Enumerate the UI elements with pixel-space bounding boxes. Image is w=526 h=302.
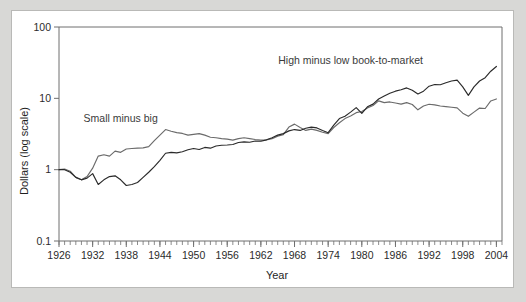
series-group xyxy=(59,66,496,185)
series-annotation-label: Small minus big xyxy=(84,112,158,124)
annotation-group: Small minus bigHigh minus low book-to-ma… xyxy=(84,54,423,124)
axes-group: 1001010.11926193219381944195019561962196… xyxy=(33,21,508,261)
x-tick-label: 1932 xyxy=(81,249,105,261)
y-tick-label: 100 xyxy=(33,21,51,33)
series-annotation-label: High minus low book-to-market xyxy=(278,54,423,66)
y-tick-label: 1 xyxy=(45,163,51,175)
figure-panel: 1001010.11926193219381944195019561962196… xyxy=(11,10,514,288)
x-tick-label: 1974 xyxy=(316,249,340,261)
series-line xyxy=(59,66,496,185)
x-axis-title: Year xyxy=(266,269,289,281)
x-tick-label: 1992 xyxy=(417,249,441,261)
x-tick-label: 1956 xyxy=(216,249,240,261)
y-tick-label: 10 xyxy=(39,92,51,104)
y-tick-label: 0.1 xyxy=(36,235,51,247)
x-tick-label: 1986 xyxy=(384,249,408,261)
x-tick-label: 1962 xyxy=(249,249,273,261)
x-tick-label: 2004 xyxy=(485,249,509,261)
x-tick-label: 1998 xyxy=(451,249,475,261)
x-tick-label: 1926 xyxy=(47,249,71,261)
y-axis-title: Dollars (log scale) xyxy=(18,107,30,195)
x-tick-label: 1938 xyxy=(115,249,139,261)
series-line xyxy=(59,99,496,180)
x-tick-label: 1968 xyxy=(283,249,307,261)
x-tick-label: 1944 xyxy=(148,249,172,261)
x-tick-label: 1950 xyxy=(182,249,206,261)
x-tick-label: 1980 xyxy=(350,249,374,261)
chart-svg: 1001010.11926193219381944195019561962196… xyxy=(12,11,513,287)
